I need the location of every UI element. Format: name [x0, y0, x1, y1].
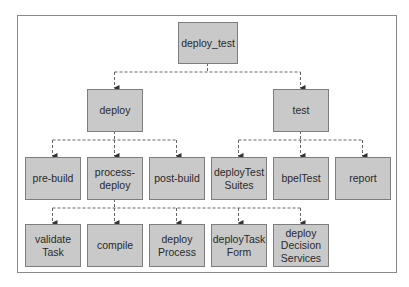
node-label: deploy Process [158, 233, 196, 258]
node-deploy-process: deploy Process [149, 224, 205, 267]
node-deploy-decision-services: deploy Decision Services [273, 224, 329, 267]
node-deploy: deploy [87, 89, 143, 132]
node-bpel-test: bpelTest [273, 157, 329, 200]
node-label: post-build [154, 172, 200, 185]
node-label: deploy Decision Services [281, 227, 321, 265]
node-label: validate Task [35, 233, 71, 258]
node-process-deploy: process- deploy [87, 157, 143, 200]
node-label: report [349, 172, 376, 185]
node-label: deploy_test [181, 37, 235, 50]
node-label: process- deploy [95, 166, 135, 191]
node-deploy-test: deploy_test [178, 22, 238, 64]
node-label: pre-build [33, 172, 74, 185]
node-label: bpelTest [281, 172, 320, 185]
node-pre-build: pre-build [25, 157, 81, 200]
node-label: test [293, 104, 310, 117]
node-deploy-test-suites: deployTest Suites [211, 157, 267, 200]
node-test: test [273, 89, 329, 132]
node-label: deployTest Suites [214, 166, 264, 191]
node-report: report [335, 157, 391, 200]
node-label: compile [97, 239, 133, 252]
node-post-build: post-build [149, 157, 205, 200]
node-compile: compile [87, 224, 143, 267]
node-deploy-task-form: deployTask Form [211, 224, 267, 267]
node-label: deployTask Form [213, 233, 266, 258]
node-label: deploy [100, 104, 131, 117]
node-validate-task: validate Task [25, 224, 81, 267]
